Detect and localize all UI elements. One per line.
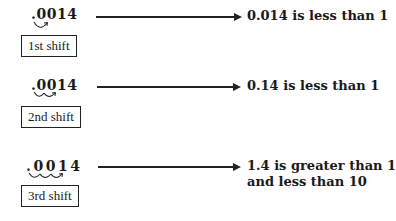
shift-hop-arrows-icon bbox=[27, 171, 75, 183]
result-text: 0.014 is less than 1 bbox=[247, 8, 388, 24]
result-text: 0.14 is less than 1 bbox=[247, 78, 379, 94]
shift-label-box: 1st shift bbox=[21, 35, 77, 57]
result-line-1: 1.4 is greater than 1 bbox=[247, 158, 396, 174]
right-arrow-icon bbox=[97, 86, 239, 88]
digit: 4 bbox=[67, 77, 77, 93]
right-arrow-icon bbox=[96, 16, 240, 18]
result-line-2: and less than 10 bbox=[247, 174, 396, 190]
shift-hop-arrows-icon bbox=[32, 90, 66, 102]
digit: 1 bbox=[57, 6, 67, 22]
shift-hop-arrows-icon bbox=[32, 20, 56, 32]
digit: 4 bbox=[67, 6, 77, 22]
shift-label-box: 3rd shift bbox=[21, 185, 79, 207]
result-text: 1.4 is greater than 1 and less than 10 bbox=[247, 158, 396, 190]
right-arrow-icon bbox=[98, 166, 239, 168]
shift-label-box: 2nd shift bbox=[21, 106, 81, 128]
